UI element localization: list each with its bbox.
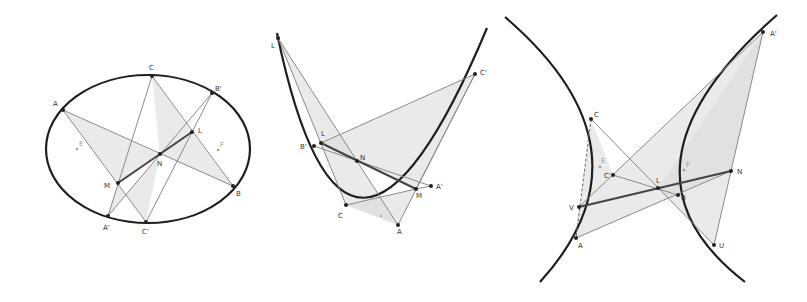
point-M	[116, 181, 120, 185]
point-C	[344, 203, 348, 207]
point-Bprime	[312, 144, 316, 148]
label-N: N	[360, 154, 365, 162]
label-Cprime: C'	[142, 228, 149, 236]
label-Bprime: B'	[215, 85, 222, 93]
focus-F	[683, 169, 686, 172]
point-B	[231, 184, 235, 188]
segment-Ltop-C	[278, 38, 346, 205]
point-L	[319, 141, 323, 145]
label-M: M	[416, 192, 422, 200]
point-B	[676, 193, 680, 197]
point-Cprime	[144, 220, 148, 224]
focus-point	[380, 215, 382, 217]
label-F: F	[686, 161, 690, 169]
label-Ltop: L	[271, 42, 275, 50]
point-A	[61, 108, 65, 112]
label-C: C	[149, 64, 154, 72]
label-D: C'	[604, 172, 611, 180]
label-E: E	[601, 157, 605, 165]
label-Aprime: A'	[770, 30, 777, 38]
point-U	[712, 243, 716, 247]
label-N: N	[157, 160, 162, 168]
label-L: L	[656, 177, 660, 185]
point-Aprime	[761, 30, 765, 34]
label-E: E	[79, 140, 83, 148]
label-Bprime: B'	[300, 143, 307, 151]
point-Bprime	[210, 91, 214, 95]
label-V: V	[569, 204, 574, 212]
focus-E	[76, 148, 79, 151]
label-L: L	[198, 127, 202, 135]
segment-M-Aprime	[416, 186, 431, 189]
point-N	[729, 169, 733, 173]
point-V	[577, 205, 581, 209]
label-L: L	[321, 130, 325, 138]
point-A	[396, 223, 400, 227]
label-Aprime: A'	[436, 183, 443, 191]
conic-diagrams-canvas: A C B' L E F N M B A' C' L	[0, 0, 807, 302]
point-A	[574, 236, 578, 240]
focus-E	[599, 166, 602, 169]
focus-F	[217, 149, 220, 152]
label-B: B	[681, 194, 686, 202]
label-B: B	[236, 190, 241, 198]
label-A: A	[53, 100, 58, 108]
point-C	[150, 74, 154, 78]
label-Aprime: A'	[103, 224, 110, 232]
point-N	[355, 159, 359, 163]
point-L	[190, 130, 194, 134]
label-N: N	[737, 168, 742, 176]
point-Cprime	[473, 72, 477, 76]
point-Aprime	[106, 214, 110, 218]
parabola-figure: L C' B' L N A' M C A	[271, 28, 487, 236]
ellipse-figure: A C B' L E F N M B A' C'	[46, 64, 250, 236]
label-U: U	[719, 242, 724, 250]
label-A: A	[397, 228, 402, 236]
point-D	[611, 173, 615, 177]
label-M: M	[104, 182, 110, 190]
point-N	[158, 152, 162, 156]
hyperbola-figure: A' C E C' F N L B V A U	[505, 15, 777, 282]
point-L	[656, 186, 660, 190]
label-F: F	[220, 141, 224, 149]
point-C	[589, 117, 593, 121]
label-C: C	[338, 212, 343, 220]
label-C: C	[594, 111, 599, 119]
label-A: A	[578, 242, 583, 250]
point-M	[414, 187, 418, 191]
point-Ltop	[276, 36, 280, 40]
point-Aprime	[429, 184, 433, 188]
label-Cprime: C'	[480, 69, 487, 77]
